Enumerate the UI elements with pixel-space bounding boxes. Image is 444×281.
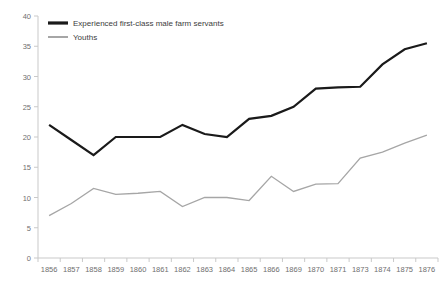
series-line [49,43,427,155]
x-tick-label: 1860 [130,265,147,274]
y-tick-label: 10 [23,194,31,203]
x-tick-label: 1863 [196,265,213,274]
x-tick-label: 1864 [219,265,236,274]
x-tick-label: 1869 [285,265,302,274]
x-tick-label: 1861 [152,265,169,274]
legend-label: Youths [73,33,97,42]
y-tick-label: 0 [27,254,31,263]
x-tick-label: 1876 [419,265,436,274]
x-tick-label: 1856 [41,265,58,274]
x-tick-label: 1875 [396,265,413,274]
y-tick-label: 35 [23,42,31,51]
y-tick-label: 5 [27,224,31,233]
series-group [49,43,427,215]
x-tick-label: 1862 [174,265,191,274]
x-axis: 1856185718581859186018611862186318641865… [38,258,438,274]
legend-label: Experienced first-class male farm servan… [73,19,224,28]
x-tick-label: 1859 [107,265,124,274]
y-tick-label: 30 [23,73,31,82]
x-tick-label: 1866 [263,265,280,274]
y-tick-label: 25 [23,103,31,112]
y-tick-label: 20 [23,133,31,142]
series-line [49,135,427,215]
x-tick-label: 1874 [374,265,391,274]
y-axis: 0510152025303540 [23,12,38,263]
chart-legend: Experienced first-class male farm servan… [48,19,224,42]
x-tick-label: 1858 [85,265,102,274]
y-tick-group: 0510152025303540 [23,12,38,263]
x-tick-group: 1856185718581859186018611862186318641865… [38,258,438,274]
y-tick-label: 15 [23,163,31,172]
x-tick-label: 1857 [63,265,80,274]
x-tick-label: 1865 [241,265,258,274]
chart-canvas: 0510152025303540 18561857185818591860186… [0,0,444,281]
x-tick-label: 1871 [330,265,347,274]
x-tick-label: 1873 [352,265,369,274]
line-chart: 0510152025303540 18561857185818591860186… [0,0,444,281]
x-tick-label: 1870 [307,265,324,274]
y-tick-label: 40 [23,12,31,21]
